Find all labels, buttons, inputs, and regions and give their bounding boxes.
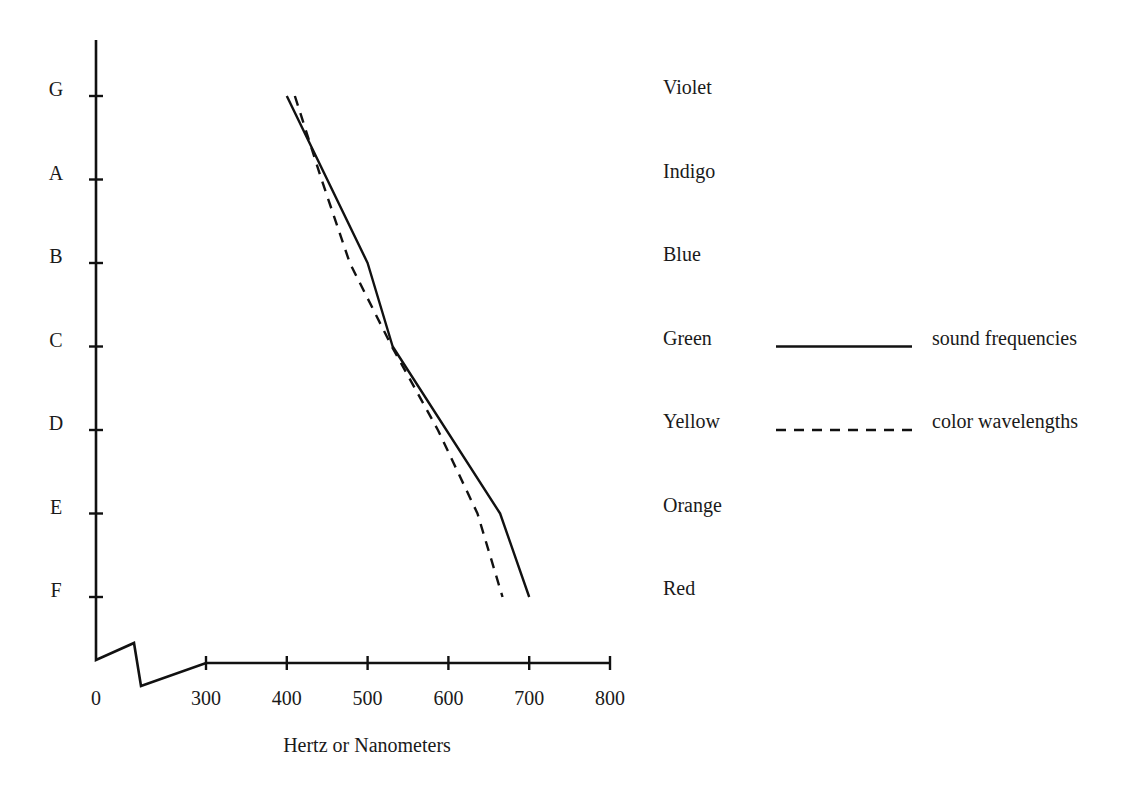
- color-label-yellow: Yellow: [663, 410, 720, 432]
- series-line-color-wavelengths: [295, 96, 503, 597]
- x-tick-label-700: 700: [514, 687, 544, 709]
- legend-label: sound frequencies: [932, 327, 1077, 350]
- x-tick-label-300: 300: [191, 687, 221, 709]
- axis-lines: [96, 40, 610, 686]
- y-tick-label-E: E: [50, 496, 62, 518]
- series-line-sound-frequencies: [287, 96, 529, 597]
- color-label-orange: Orange: [663, 494, 722, 517]
- y-tick-label-C: C: [49, 329, 62, 351]
- x-tick-label-600: 600: [433, 687, 463, 709]
- x-tick-label-500: 500: [353, 687, 383, 709]
- axes: [96, 40, 610, 686]
- x-tick-label-400: 400: [272, 687, 302, 709]
- color-labels: VioletIndigoBlueGreenYellowOrangeRed: [663, 76, 722, 599]
- x-tick-label-0: 0: [91, 687, 101, 709]
- series-lines: [287, 96, 529, 597]
- y-tick-label-B: B: [49, 245, 62, 267]
- color-label-blue: Blue: [663, 243, 701, 265]
- chart: GABCDEF 0300400500600700800 VioletIndigo…: [0, 0, 1144, 788]
- x-axis-label: Hertz or Nanometers: [283, 734, 451, 756]
- y-tick-label-A: A: [49, 162, 64, 184]
- legend: sound frequenciescolor wavelengths: [776, 327, 1078, 434]
- y-tick-label-G: G: [49, 78, 63, 100]
- y-tick-label-D: D: [49, 412, 63, 434]
- legend-label: color wavelengths: [932, 410, 1078, 433]
- color-label-green: Green: [663, 327, 712, 349]
- color-label-violet: Violet: [663, 76, 712, 98]
- color-label-red: Red: [663, 577, 695, 599]
- color-label-indigo: Indigo: [663, 160, 715, 183]
- x-tick-label-800: 800: [595, 687, 625, 709]
- y-tick-label-F: F: [50, 579, 61, 601]
